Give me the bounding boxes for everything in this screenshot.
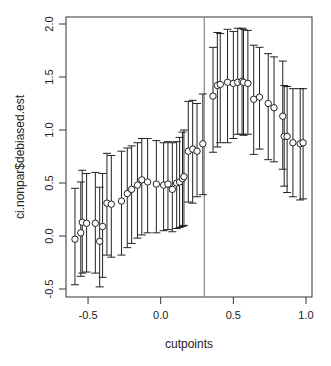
data-point: [224, 79, 230, 85]
y-tick-label: 0.5: [43, 175, 55, 190]
data-point: [92, 220, 98, 226]
data-point: [134, 182, 140, 188]
chart: -0.50.00.51.01.52.0 -0.50.00.51.0 cutpoi…: [0, 0, 331, 366]
data-point: [217, 81, 223, 87]
x-tick-label: 0.5: [226, 309, 241, 321]
data-point: [78, 230, 84, 236]
data-point: [200, 141, 206, 147]
y-tick-label: 1.0: [43, 122, 55, 137]
data-point: [271, 105, 277, 111]
data-point: [194, 148, 200, 154]
y-tick-label: 2.0: [43, 16, 55, 31]
data-point: [118, 198, 124, 204]
data-point: [284, 133, 290, 139]
data-point: [83, 220, 89, 226]
data-point: [181, 173, 187, 179]
x-tick-label: -0.5: [79, 309, 98, 321]
y-tick-label: 1.5: [43, 69, 55, 84]
data-point: [300, 140, 306, 146]
x-tick-label: 1.0: [298, 309, 313, 321]
x-axis: -0.50.00.51.0: [79, 297, 314, 321]
data-point: [99, 223, 105, 229]
data-point: [245, 80, 251, 86]
data-point: [210, 93, 216, 99]
error-bars: [71, 28, 307, 287]
x-axis-label: cutpoints: [165, 337, 213, 351]
y-axis: -0.50.00.51.01.52.0: [43, 16, 66, 298]
data-point: [128, 186, 134, 192]
data-point: [265, 100, 271, 106]
data-point: [165, 181, 171, 187]
data-point: [169, 186, 175, 192]
data-point: [153, 181, 159, 187]
data-point: [280, 113, 286, 119]
y-axis-label: ci.nonpar$debiased.est: [13, 94, 27, 219]
y-tick-label: 0.0: [43, 228, 55, 243]
x-tick-label: 0.0: [153, 309, 168, 321]
data-point: [96, 238, 102, 244]
data-point: [72, 236, 78, 242]
data-point: [108, 201, 114, 207]
data-point: [144, 179, 150, 185]
data-point: [290, 140, 296, 146]
data-point: [256, 94, 262, 100]
y-tick-label: -0.5: [43, 280, 55, 299]
